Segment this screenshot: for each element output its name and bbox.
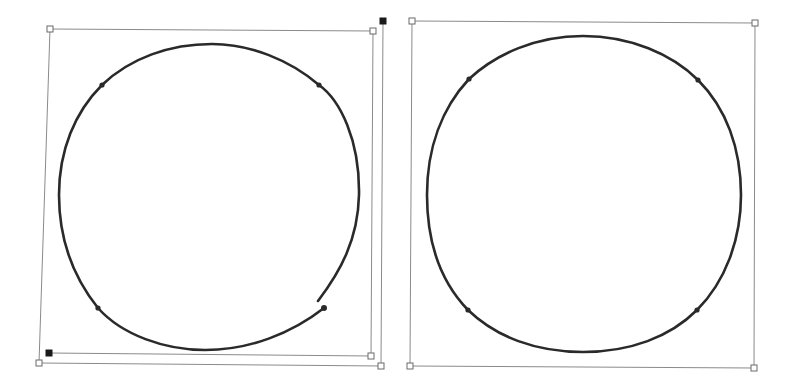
handle-outer-bottom-right[interactable] xyxy=(378,363,384,369)
left-anchor-points[interactable] xyxy=(95,82,327,311)
anchor-point[interactable] xyxy=(465,307,470,312)
handle-top-right[interactable] xyxy=(752,20,758,26)
anchor-point[interactable] xyxy=(321,305,327,311)
anchor-point[interactable] xyxy=(99,82,104,87)
handle-inner-bottom-right[interactable] xyxy=(368,353,374,359)
anchor-point[interactable] xyxy=(466,76,471,81)
anchor-point[interactable] xyxy=(694,307,699,312)
handle-top-left[interactable] xyxy=(47,26,53,32)
right-anchor-points[interactable] xyxy=(465,76,700,312)
anchor-point[interactable] xyxy=(316,82,321,87)
handle-top-right[interactable] xyxy=(370,28,376,34)
vector-canvas[interactable] xyxy=(0,0,795,386)
left-shape-group[interactable] xyxy=(36,18,386,369)
handle-bottom-left[interactable] xyxy=(407,363,413,369)
anchor-point[interactable] xyxy=(695,77,700,82)
right-bounding-box xyxy=(410,21,755,368)
left-open-circle-path[interactable] xyxy=(59,44,359,350)
handle-bottom-left[interactable] xyxy=(36,360,42,366)
left-bounding-box xyxy=(39,21,383,366)
handle-top-left[interactable] xyxy=(409,18,415,24)
handle-solid-top-right[interactable] xyxy=(380,18,386,24)
right-closed-circle-path[interactable] xyxy=(427,36,741,352)
handle-bottom-right[interactable] xyxy=(751,365,757,371)
right-transform-handles[interactable] xyxy=(407,18,758,371)
right-shape-group[interactable] xyxy=(407,18,758,371)
left-transform-handles[interactable] xyxy=(36,18,386,369)
handle-solid-bottom-left[interactable] xyxy=(46,350,52,356)
anchor-point[interactable] xyxy=(95,305,100,310)
